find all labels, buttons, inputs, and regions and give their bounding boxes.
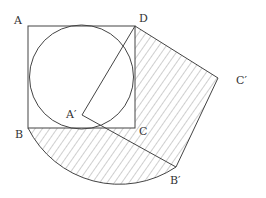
label-c-prime: C′ <box>236 74 247 87</box>
label-a: A <box>13 14 23 27</box>
geometry-figure: A D B C A′ C′ B′ <box>0 0 266 198</box>
shaded-swept-region <box>28 26 218 184</box>
label-b: B <box>15 128 23 141</box>
label-c: C <box>139 125 147 138</box>
label-a-prime: A′ <box>65 108 77 121</box>
label-d: D <box>139 12 148 25</box>
label-b-prime: B′ <box>170 174 181 187</box>
inscribed-circle <box>30 25 134 129</box>
